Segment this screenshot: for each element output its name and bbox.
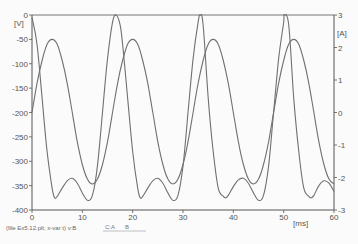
x-tick-label: 60 — [330, 213, 339, 222]
legend-item-a: C:A — [105, 224, 115, 230]
left-y-tick-label: -250 — [12, 133, 29, 142]
right-y-tick-label: 1 — [338, 76, 343, 85]
legend-item-b: B — [125, 224, 129, 230]
right-y-tick-label: -3 — [338, 206, 346, 215]
x-tick-label: 20 — [128, 213, 137, 222]
left-axis-unit: [V] — [14, 19, 24, 28]
legend: C:A B — [103, 224, 146, 231]
x-axis-unit: [ms] — [293, 219, 308, 228]
x-tick-label: 30 — [179, 213, 188, 222]
x-tick-label: 0 — [30, 213, 35, 222]
right-y-tick-label: 0 — [338, 109, 343, 118]
left-y-tick-label: 0 — [24, 11, 29, 20]
left-y-tick-label: -300 — [12, 157, 29, 166]
x-tick-label: 50 — [279, 213, 288, 222]
left-y-tick-label: -400 — [12, 206, 29, 215]
left-y-tick-label: -100 — [12, 60, 29, 69]
left-y-tick-label: -150 — [12, 84, 29, 93]
left-y-tick-label: -200 — [12, 109, 29, 118]
right-axis-unit: [A] — [337, 29, 347, 38]
right-y-tick-label: 2 — [338, 44, 343, 53]
voltage-curve-b — [32, 15, 334, 201]
right-y-tick-label: 3 — [338, 11, 343, 20]
plot-curves — [32, 15, 334, 201]
x-tick-label: 10 — [78, 213, 87, 222]
left-y-tick-label: -350 — [12, 182, 29, 191]
right-y-tick-label: -2 — [338, 174, 346, 183]
dual-axis-line-chart: 0-50-100-150-200-250-300-350-4003210-1-2… — [0, 0, 358, 244]
x-tick-label: 40 — [229, 213, 238, 222]
right-y-tick-label: -1 — [338, 141, 346, 150]
plot-footer-info: (file Ex5.12.plt; x-var t) v:B — [6, 225, 76, 231]
left-y-tick-label: -50 — [16, 35, 28, 44]
